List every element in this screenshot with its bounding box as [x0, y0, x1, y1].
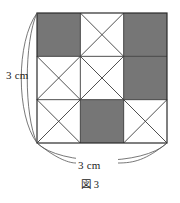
cell-r0c0-shaded	[37, 13, 80, 56]
width-brace-right-tail	[118, 143, 167, 163]
height-dimension-label: 3 cm	[6, 70, 29, 81]
figure-container: 3 cm 3 cm 図 3	[0, 0, 180, 203]
figure-caption: 図 3	[0, 180, 180, 191]
cell-r0c2-shaded	[124, 13, 167, 56]
figure-drawing	[0, 0, 180, 203]
cell-r1c2-shaded	[124, 56, 167, 99]
width-dimension-label: 3 cm	[78, 160, 101, 171]
cell-r2c1-shaded	[80, 100, 123, 143]
width-brace-left-tail	[37, 143, 76, 163]
